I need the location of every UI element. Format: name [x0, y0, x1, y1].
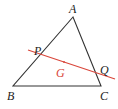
label-c: C: [100, 89, 109, 103]
label-q: Q: [100, 63, 109, 77]
label-p: P: [33, 44, 42, 58]
centroid-point: [63, 61, 65, 63]
label-b: B: [7, 89, 15, 103]
label-a: A: [68, 2, 77, 16]
label-g: G: [56, 66, 65, 80]
triangle-diagram: A P G Q B C: [0, 0, 118, 109]
